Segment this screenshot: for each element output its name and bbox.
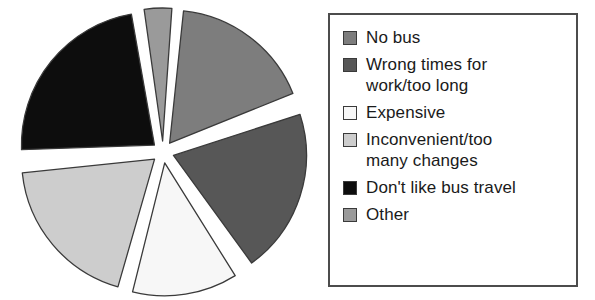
pie-chart-figure: No busWrong times for work/too longExpen… [0, 0, 595, 300]
legend-item-list: No busWrong times for work/too longExpen… [343, 27, 570, 231]
legend-color-swatch [343, 133, 357, 147]
legend-item[interactable]: No bus [343, 27, 570, 48]
legend-item[interactable]: Inconvenient/too many changes [343, 129, 570, 171]
pie-slice-group [21, 8, 306, 296]
pie-svg [0, 0, 320, 300]
legend-color-swatch [343, 31, 357, 45]
legend-item[interactable]: Expensive [343, 102, 570, 123]
legend-color-swatch [343, 58, 357, 72]
legend-item-label: Other [366, 204, 409, 225]
legend-color-swatch [343, 181, 357, 195]
pie-chart [0, 0, 320, 300]
legend-color-swatch [343, 208, 357, 222]
legend-item-label: Don't like bus travel [366, 177, 516, 198]
legend-item[interactable]: Don't like bus travel [343, 177, 570, 198]
chart-legend: No busWrong times for work/too longExpen… [328, 13, 578, 287]
pie-slice[interactable] [21, 14, 154, 150]
pie-slice[interactable] [22, 159, 154, 287]
legend-color-swatch [343, 106, 357, 120]
legend-item[interactable]: Other [343, 204, 570, 225]
legend-item-label: Wrong times for work/too long [366, 54, 487, 96]
legend-item-label: Expensive [366, 102, 445, 123]
legend-item-label: No bus [366, 27, 420, 48]
legend-item-label: Inconvenient/too many changes [366, 129, 492, 171]
legend-item[interactable]: Wrong times for work/too long [343, 54, 570, 96]
